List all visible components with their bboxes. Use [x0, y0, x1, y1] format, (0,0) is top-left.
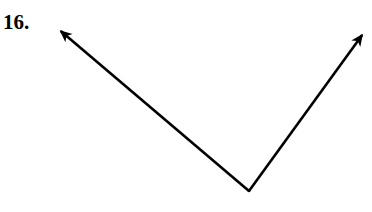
right-ray-line	[249, 35, 362, 191]
left-ray-line	[61, 31, 249, 191]
geometry-figure-canvas: 16.	[0, 0, 372, 212]
angle-diagram	[0, 0, 372, 212]
angle-vertex-point	[248, 190, 251, 193]
ray-group	[61, 31, 363, 191]
